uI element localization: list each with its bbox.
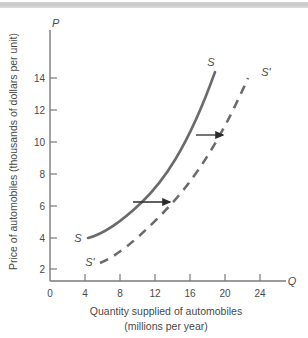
curve-label-s-prime-top: S' [261, 66, 271, 78]
supply-shift-chart: 14 12 10 8 6 4 2 0 4 8 12 16 20 24 [0, 0, 308, 338]
x-axis-title-line1: Quantity supplied of automobiles [90, 305, 242, 317]
y-tick-label-8: 8 [39, 169, 45, 180]
curve-label-s-top: S [207, 56, 215, 68]
y-axis-letter-p: P [52, 17, 60, 29]
y-tick-label-12: 12 [34, 105, 46, 116]
x-axis-ticks [85, 274, 260, 281]
y-tick-label-6: 6 [39, 201, 45, 212]
supply-curve-s [88, 72, 215, 238]
y-axis-tick-labels: 14 12 10 8 6 4 2 [34, 73, 46, 275]
axes [50, 30, 286, 281]
x-tick-label-12: 12 [149, 288, 161, 299]
x-axis-tick-labels: 0 4 8 12 16 20 24 [47, 288, 266, 299]
y-tick-label-4: 4 [39, 233, 45, 244]
y-axis-ticks [50, 78, 57, 269]
y-tick-label-10: 10 [34, 137, 46, 148]
x-tick-label-16: 16 [184, 288, 196, 299]
x-tick-label-8: 8 [117, 288, 123, 299]
x-tick-label-20: 20 [219, 288, 231, 299]
y-tick-label-14: 14 [34, 73, 46, 84]
supply-curve-figure: 14 12 10 8 6 4 2 0 4 8 12 16 20 24 [0, 0, 308, 338]
x-axis-title-line2: (millions per year) [124, 320, 207, 332]
x-tick-label-4: 4 [82, 288, 88, 299]
x-axis-letter-q: Q [288, 275, 297, 287]
y-tick-label-2: 2 [39, 264, 45, 275]
y-axis-title: Price of automobiles (thousands of dolla… [7, 33, 19, 270]
curve-label-s-bottom: S [74, 232, 82, 244]
supply-curve-s-prime [100, 78, 248, 263]
x-tick-label-24: 24 [254, 288, 266, 299]
curve-label-s-prime-bottom: S' [85, 256, 95, 268]
x-tick-label-0: 0 [47, 288, 53, 299]
